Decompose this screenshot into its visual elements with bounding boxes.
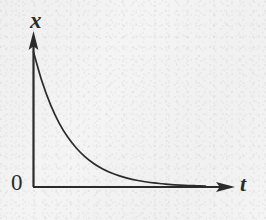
y-axis-label: x (30, 9, 42, 32)
origin-label: 0 (11, 171, 23, 194)
exponential-decay-figure: x t 0 (0, 0, 266, 220)
plot-area (0, 0, 266, 220)
x-axis-label: t (240, 173, 246, 195)
exponential-decay-curve (34, 52, 206, 186)
